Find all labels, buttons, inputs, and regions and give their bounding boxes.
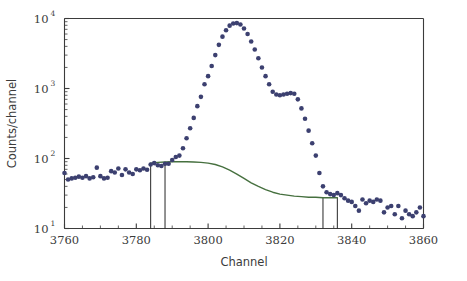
- data-point: [145, 167, 150, 172]
- data-point: [170, 158, 175, 163]
- data-point: [314, 153, 319, 158]
- data-point: [263, 74, 268, 79]
- x-tick-label: 3840: [337, 233, 366, 247]
- data-point: [306, 128, 311, 133]
- data-point: [105, 176, 110, 181]
- data-point: [120, 173, 125, 178]
- data-point: [91, 175, 96, 180]
- data-point: [213, 53, 218, 58]
- data-point: [389, 204, 394, 209]
- data-point: [209, 64, 214, 69]
- data-point: [202, 82, 207, 87]
- data-point: [267, 82, 272, 87]
- y-tick-label-base: 10: [34, 222, 49, 236]
- y-axis-title: Counts/channel: [5, 79, 19, 169]
- data-point: [339, 193, 344, 198]
- data-point: [62, 171, 67, 176]
- x-tick-label: 3800: [193, 233, 222, 247]
- x-tick-label: 3760: [50, 233, 79, 247]
- x-tick-label: 3820: [265, 233, 294, 247]
- y-axis-tick-labels: 101102103104: [34, 9, 56, 236]
- spectrum-figure: 376037803800382038403860 101102103104 Ch…: [0, 0, 467, 281]
- data-point: [220, 34, 225, 39]
- data-point: [321, 184, 326, 189]
- data-point: [317, 171, 322, 176]
- data-point: [217, 43, 222, 48]
- axes-spines: [65, 19, 424, 229]
- spectrum-data-points: [62, 21, 426, 221]
- background-fit-curve: [151, 162, 338, 198]
- data-point: [123, 167, 128, 172]
- data-point: [421, 214, 426, 219]
- data-point: [184, 136, 189, 141]
- data-point: [310, 141, 315, 146]
- data-point: [400, 216, 405, 221]
- data-point: [292, 92, 297, 97]
- data-point: [249, 39, 254, 44]
- data-point: [188, 126, 193, 131]
- data-point: [414, 210, 419, 215]
- data-point: [396, 204, 401, 209]
- data-point: [410, 214, 415, 219]
- data-point: [245, 32, 250, 37]
- y-tick-label-exponent: 4: [51, 9, 56, 18]
- data-point: [303, 116, 308, 121]
- data-point: [191, 116, 196, 121]
- plot-frame: [65, 19, 424, 229]
- data-point: [256, 56, 261, 61]
- spectrum-plot: 376037803800382038403860 101102103104 Ch…: [0, 0, 467, 281]
- data-point: [116, 166, 121, 171]
- data-point: [112, 170, 117, 175]
- data-point: [353, 204, 358, 209]
- data-point: [177, 153, 182, 158]
- y-tick-label-exponent: 2: [51, 149, 56, 158]
- data-point: [382, 210, 387, 215]
- x-axis-title: Channel: [220, 255, 267, 269]
- data-point: [166, 162, 171, 167]
- data-point: [206, 74, 211, 79]
- data-point: [418, 205, 423, 210]
- data-point: [95, 165, 100, 170]
- data-point: [252, 47, 257, 52]
- roi-marker-lines: [151, 162, 338, 228]
- data-point: [296, 97, 301, 102]
- data-point: [392, 212, 397, 217]
- data-point: [199, 95, 204, 100]
- x-tick-label: 3780: [122, 233, 151, 247]
- data-point: [238, 22, 243, 27]
- data-point: [349, 200, 354, 205]
- x-tick-label: 3860: [409, 233, 438, 247]
- data-point: [299, 106, 304, 111]
- y-tick-label-exponent: 1: [51, 219, 56, 228]
- data-point: [224, 28, 229, 33]
- data-point: [360, 197, 365, 202]
- y-axis-major-ticks: [65, 19, 70, 229]
- y-tick-label-base: 10: [34, 152, 49, 166]
- data-point: [260, 65, 265, 70]
- data-point: [242, 26, 247, 31]
- data-point: [195, 104, 200, 109]
- y-tick-label-base: 10: [34, 82, 49, 96]
- x-axis-tick-labels: 376037803800382038403860: [50, 233, 438, 247]
- data-point: [357, 208, 362, 213]
- data-point: [181, 146, 186, 151]
- data-point: [378, 198, 383, 203]
- data-point: [403, 208, 408, 213]
- y-tick-label-exponent: 3: [51, 79, 56, 88]
- data-point: [270, 89, 275, 94]
- y-tick-label-base: 10: [34, 12, 49, 26]
- data-point: [130, 172, 135, 177]
